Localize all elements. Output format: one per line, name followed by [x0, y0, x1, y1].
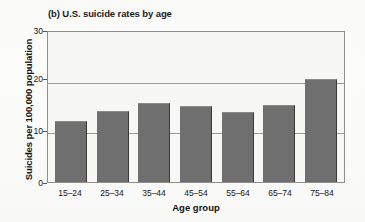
x-tick-label: 65–74: [264, 188, 296, 198]
bar-series: [48, 32, 344, 182]
x-tick-label: 55–64: [222, 188, 254, 198]
table-row: [222, 112, 254, 182]
table-row: [55, 121, 87, 182]
y-tick-label-30: 30: [3, 26, 43, 36]
x-tick-label: 35–44: [138, 188, 170, 198]
table-row: [180, 106, 212, 182]
y-tick-mark-0: [43, 183, 47, 184]
x-tick-label: 45–54: [180, 188, 212, 198]
x-tick-label: 15–24: [54, 188, 86, 198]
x-tick-label: 25–34: [96, 188, 128, 198]
table-row: [305, 79, 337, 182]
table-row: [263, 105, 295, 182]
x-axis-label: Age group: [47, 202, 345, 213]
table-row: [97, 111, 129, 182]
x-axis-tick-labels: 15–24 25–34 35–44 45–54 55–64 65–74 75–8…: [47, 188, 345, 198]
y-tick-label-10: 10: [3, 126, 43, 136]
y-tick-label-0: 0: [3, 178, 43, 188]
y-tick-label-20: 20: [3, 74, 43, 84]
table-row: [138, 103, 170, 182]
y-axis-label: Suicides per 100,000 population: [23, 30, 34, 190]
chart-title: (b) U.S. suicide rates by age: [48, 8, 172, 19]
plot-area: [47, 31, 345, 183]
figure-panel: (b) U.S. suicide rates by age Suicides p…: [0, 0, 365, 222]
x-tick-label: 75–84: [306, 188, 338, 198]
